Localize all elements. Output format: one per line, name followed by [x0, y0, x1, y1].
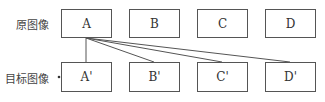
- target-box-d: D': [265, 62, 316, 92]
- source-box-a: A: [61, 9, 112, 38]
- target-box-b: B': [129, 62, 180, 92]
- source-box-b: B: [129, 9, 180, 38]
- source-box-c: C: [197, 9, 248, 38]
- target-image-label: 目标图像: [5, 70, 49, 86]
- target-box-a: A': [61, 62, 112, 92]
- target-box-c: C': [197, 62, 248, 92]
- source-image-label: 原图像: [16, 16, 49, 32]
- source-box-d: D: [265, 9, 316, 38]
